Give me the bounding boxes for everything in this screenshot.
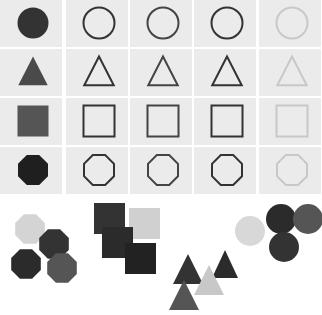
- square-icon: [129, 208, 160, 239]
- octagon-icon: [11, 249, 41, 279]
- circle-icon: [235, 216, 265, 246]
- circle-icon: [266, 204, 296, 234]
- cluster-area: [0, 0, 322, 315]
- square-icon: [125, 243, 156, 274]
- octagon-icon: [47, 253, 77, 283]
- triangle-cluster: [169, 250, 238, 310]
- triangle-icon: [212, 250, 238, 278]
- circle-icon: [269, 232, 299, 262]
- circle-cluster: [235, 204, 322, 262]
- octagon-cluster: [11, 214, 77, 283]
- square-cluster: [94, 203, 160, 274]
- triangle-icon: [173, 254, 203, 284]
- circle-icon: [293, 204, 322, 234]
